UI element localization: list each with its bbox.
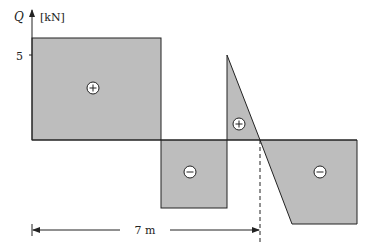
minus-sign-icon	[314, 166, 326, 178]
plus-sign-icon	[87, 82, 99, 94]
shear-force-diagram: Q [kN] 5 7 m	[0, 0, 375, 250]
tick-label-5: 5	[16, 50, 23, 63]
plus-sign-icon	[233, 118, 245, 130]
dimension-label: 7 m	[135, 224, 156, 237]
minus-sign-icon	[184, 166, 196, 178]
y-axis-label: Q	[14, 10, 24, 24]
region-negative-4	[260, 140, 357, 224]
unit-label: [kN]	[40, 11, 65, 24]
